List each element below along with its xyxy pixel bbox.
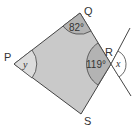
angle-label-q: 82° bbox=[69, 22, 84, 33]
vertex-label-p: P bbox=[4, 51, 11, 63]
vertex-label-s: S bbox=[84, 115, 91, 127]
vertex-label-q: Q bbox=[84, 5, 93, 17]
angle-label-r-interior: 119° bbox=[86, 59, 106, 70]
angle-label-p: y bbox=[22, 59, 28, 70]
quadrilateral-diagram: P Q R S 82° 119° x y bbox=[0, 0, 136, 129]
angle-label-r-exterior: x bbox=[115, 58, 121, 69]
vertex-label-r: R bbox=[105, 46, 113, 58]
